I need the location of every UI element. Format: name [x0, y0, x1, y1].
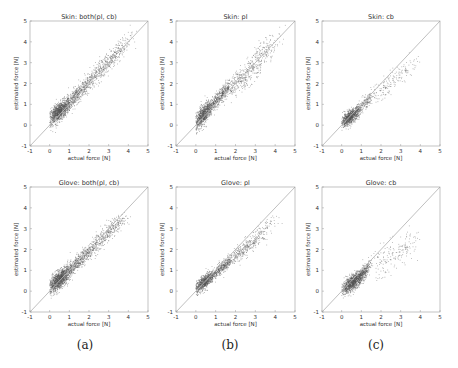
x-tick-label: 4: [419, 148, 423, 154]
x-tick-label: 5: [146, 314, 150, 320]
x-tick-label: -1: [173, 148, 178, 154]
x-tick-label: -1: [319, 148, 324, 154]
scatter-panel: -1012345-1012345Skin: plactual force [N]…: [159, 13, 297, 161]
caption-a: (a): [77, 338, 94, 352]
y-tick-label: 3: [170, 60, 174, 66]
y-tick-label: -1: [314, 143, 319, 149]
x-tick-label: -1: [27, 148, 32, 154]
y-tick-label: 3: [24, 60, 28, 66]
x-tick-label: 3: [107, 148, 111, 154]
y-axis-label: estimated force [N]: [13, 57, 19, 110]
y-tick-label: 0: [24, 122, 28, 128]
y-tick-label: 1: [170, 101, 174, 107]
y-axis-label: estimated force [N]: [159, 223, 165, 276]
y-tick-label: 0: [24, 288, 28, 294]
x-tick-label: 3: [107, 314, 111, 320]
x-tick-label: 2: [234, 148, 238, 154]
x-tick-label: 2: [379, 148, 383, 154]
x-tick-label: 0: [340, 314, 344, 320]
y-tick-label: 2: [170, 247, 174, 253]
y-tick-label: 4: [24, 39, 28, 45]
y-tick-label: 4: [24, 205, 28, 211]
chart-title: Glove: both(pl, cb): [59, 179, 120, 187]
y-tick-label: 0: [316, 288, 320, 294]
chart-title: Glove: pl: [221, 179, 250, 187]
x-axis-label: actual force [N]: [68, 155, 111, 161]
x-tick-label: 5: [293, 148, 297, 154]
y-tick-label: 4: [170, 205, 174, 211]
identity-line: [30, 21, 148, 146]
x-tick-label: 3: [399, 148, 403, 154]
x-tick-label: 3: [254, 148, 258, 154]
y-tick-label: 5: [170, 18, 174, 24]
x-tick-label: 1: [360, 148, 364, 154]
y-tick-label: -1: [22, 143, 27, 149]
identity-line: [176, 21, 295, 146]
y-tick-label: -1: [22, 309, 27, 315]
y-tick-label: 0: [170, 122, 174, 128]
y-tick-label: -1: [314, 309, 319, 315]
y-tick-label: 1: [170, 267, 174, 273]
x-axis-label: actual force [N]: [214, 321, 257, 327]
y-tick-label: 2: [316, 81, 320, 87]
x-tick-label: 4: [127, 148, 131, 154]
x-tick-label: 4: [273, 148, 277, 154]
y-tick-label: 0: [316, 122, 320, 128]
x-tick-label: 3: [254, 314, 258, 320]
x-tick-label: 4: [127, 314, 131, 320]
scatter-figure: -1012345-1012345Skin: both(pl, cb)actual…: [0, 0, 458, 368]
y-tick-label: 4: [316, 39, 320, 45]
identity-line: [322, 187, 440, 312]
scatter-points: [196, 216, 283, 296]
y-tick-label: 1: [316, 101, 320, 107]
x-tick-label: 0: [48, 314, 52, 320]
scatter-panel: -1012345-1012345Glove: cbactual force [N…: [305, 179, 442, 327]
scatter-points: [49, 212, 131, 298]
identity-line: [176, 187, 295, 312]
x-tick-label: 5: [293, 314, 297, 320]
x-axis-label: actual force [N]: [214, 155, 257, 161]
x-tick-label: -1: [319, 314, 324, 320]
y-tick-label: 0: [170, 288, 174, 294]
y-tick-label: 4: [170, 39, 174, 45]
x-tick-label: 0: [194, 148, 198, 154]
x-tick-label: 2: [87, 314, 91, 320]
y-axis-label: estimated force [N]: [13, 223, 19, 276]
x-tick-label: 1: [214, 314, 218, 320]
y-axis-label: estimated force [N]: [159, 57, 165, 110]
y-tick-label: 1: [316, 267, 320, 273]
scatter-points: [341, 52, 420, 130]
x-tick-label: 5: [146, 148, 150, 154]
y-tick-label: 2: [170, 81, 174, 87]
y-axis-label: estimated force [N]: [305, 223, 311, 276]
y-tick-label: 3: [316, 60, 320, 66]
chart-title: Skin: both(pl, cb): [61, 13, 117, 21]
y-tick-label: 1: [24, 101, 28, 107]
x-axis-label: actual force [N]: [360, 321, 403, 327]
x-tick-label: 3: [399, 314, 403, 320]
x-tick-label: 1: [360, 314, 364, 320]
x-tick-label: 5: [438, 314, 442, 320]
y-tick-label: -1: [168, 309, 173, 315]
chart-title: Skin: cb: [368, 13, 394, 21]
y-tick-label: 2: [24, 247, 28, 253]
scatter-panel: -1012345-1012345Skin: both(pl, cb)actual…: [13, 13, 150, 161]
scatter-panel: -1012345-1012345Skin: cbactual force [N]…: [305, 13, 442, 161]
x-tick-label: 4: [273, 314, 277, 320]
x-tick-label: 2: [87, 148, 91, 154]
scatter-points: [341, 226, 420, 299]
caption-c: (c): [368, 338, 384, 352]
scatter-panel: -1012345-1012345Glove: plactual force [N…: [159, 179, 297, 327]
x-axis-label: actual force [N]: [68, 321, 111, 327]
x-tick-label: 5: [438, 148, 442, 154]
y-tick-label: 3: [316, 226, 320, 232]
y-tick-label: 5: [170, 184, 174, 190]
y-tick-label: 2: [316, 247, 320, 253]
y-tick-label: 3: [170, 226, 174, 232]
y-tick-label: 4: [316, 205, 320, 211]
y-tick-label: -1: [168, 143, 173, 149]
chart-title: Glove: cb: [366, 179, 397, 187]
x-tick-label: -1: [27, 314, 32, 320]
x-tick-label: 1: [68, 148, 72, 154]
scatter-panel: -1012345-1012345Glove: both(pl, cb)actua…: [13, 179, 150, 327]
